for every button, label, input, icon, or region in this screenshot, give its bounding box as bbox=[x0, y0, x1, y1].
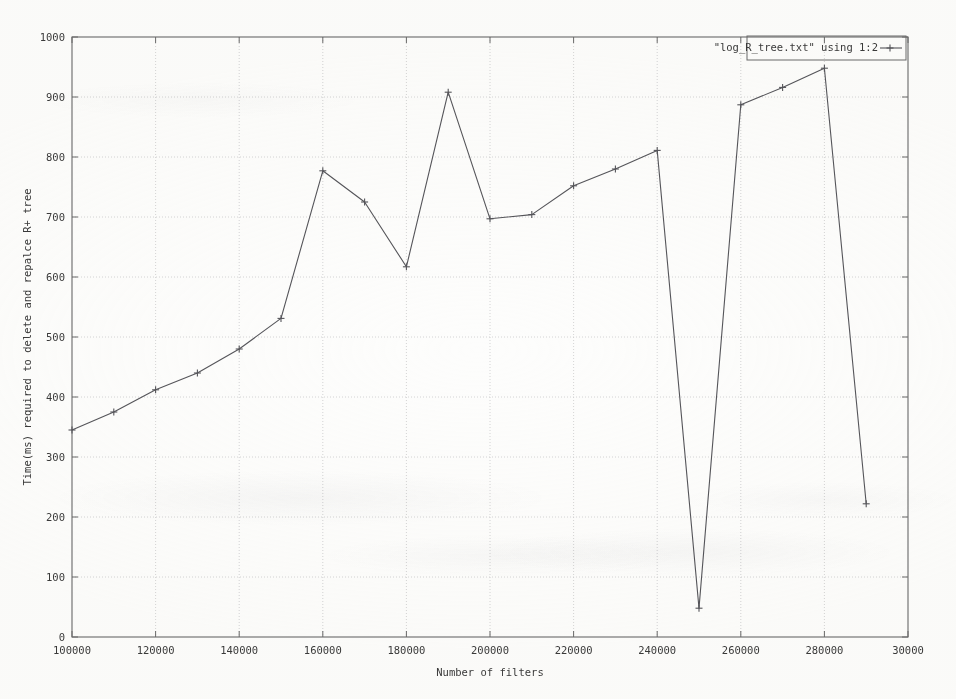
x-tick-label: 30000 bbox=[892, 644, 924, 656]
x-axis-title: Number of filters bbox=[436, 666, 543, 678]
x-tick-label: 120000 bbox=[137, 644, 175, 656]
y-tick-label: 600 bbox=[46, 271, 65, 283]
x-tick-label: 200000 bbox=[471, 644, 509, 656]
y-tick-label: 200 bbox=[46, 511, 65, 523]
y-tick-label: 300 bbox=[46, 451, 65, 463]
x-tick-label: 100000 bbox=[53, 644, 91, 656]
y-tick-label: 100 bbox=[46, 571, 65, 583]
x-tick-label: 180000 bbox=[387, 644, 425, 656]
x-tick-label: 280000 bbox=[805, 644, 843, 656]
legend-label: "log_R_tree.txt" using 1:2 bbox=[714, 41, 878, 54]
y-axis-title: Time(ms) required to delete and repalce … bbox=[21, 188, 33, 485]
chart-page: 01002003004005006007008009001000 1000001… bbox=[0, 0, 956, 699]
y-tick-label: 700 bbox=[46, 211, 65, 223]
y-tick-label: 400 bbox=[46, 391, 65, 403]
x-tick-label: 140000 bbox=[220, 644, 258, 656]
line-chart: 01002003004005006007008009001000 1000001… bbox=[0, 0, 956, 699]
y-tick-label: 500 bbox=[46, 331, 65, 343]
x-tick-label: 220000 bbox=[555, 644, 593, 656]
x-tick-label: 240000 bbox=[638, 644, 676, 656]
y-tick-label: 0 bbox=[59, 631, 65, 643]
y-tick-label: 800 bbox=[46, 151, 65, 163]
y-tick-label: 1000 bbox=[40, 31, 65, 43]
y-tick-label: 900 bbox=[46, 91, 65, 103]
x-tick-label: 260000 bbox=[722, 644, 760, 656]
x-tick-label: 160000 bbox=[304, 644, 342, 656]
